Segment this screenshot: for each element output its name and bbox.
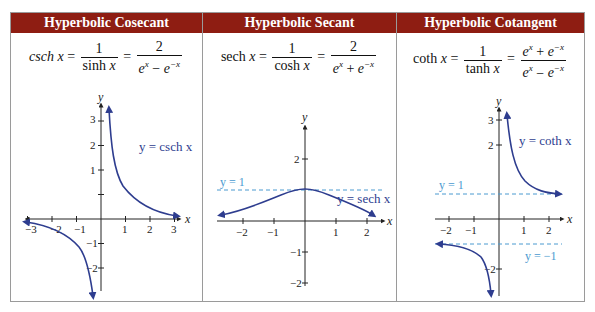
svg-text:−3: −3 xyxy=(25,223,37,235)
svg-text:3: 3 xyxy=(90,113,96,125)
svg-text:x: x xyxy=(566,212,573,226)
formula-coth: coth x = 1tanh x = ex + e−xex − e−x xyxy=(397,39,584,81)
svg-text:2: 2 xyxy=(546,224,552,236)
svg-text:1: 1 xyxy=(122,223,128,235)
svg-text:−2: −2 xyxy=(236,226,248,238)
coth-graph: x y −2 −1 1 2 3 2 −2 y = 1 y = −1 y = co… xyxy=(397,91,585,301)
panel-coth: Hyperbolic Cotangent coth x = 1tanh x = … xyxy=(396,13,584,301)
formula-lhs: coth x xyxy=(413,51,447,66)
panel-title: Hyperbolic Cotangent xyxy=(397,13,584,33)
fraction-1: 1sinh x xyxy=(81,41,118,74)
sech-graph: x y −2 −1 1 2 2 −1 −2 y = 1 y = sech x xyxy=(203,91,397,301)
svg-text:1: 1 xyxy=(521,224,527,236)
curve-label: y = coth x xyxy=(519,133,572,148)
asymptote-label: y = 1 xyxy=(220,175,245,189)
svg-text:2: 2 xyxy=(294,153,300,165)
formula-csch: csch x = 1sinh x = 2ex − e−x xyxy=(11,39,202,77)
panel-title: Hyperbolic Secant xyxy=(203,13,396,33)
hyperbolic-functions-table: Hyperbolic Cosecant csch x = 1sinh x = 2… xyxy=(10,12,585,302)
svg-text:1: 1 xyxy=(333,226,339,238)
svg-text:−1: −1 xyxy=(86,237,98,249)
svg-text:y: y xyxy=(495,94,502,108)
fraction-2: ex + e−xex − e−x xyxy=(521,39,566,81)
svg-text:−2: −2 xyxy=(290,277,302,289)
svg-text:x: x xyxy=(386,214,393,228)
svg-text:y: y xyxy=(301,110,308,124)
fraction-1: 1cosh x xyxy=(272,41,311,74)
formula-sech: sech x = 1cosh x = 2ex + e−x xyxy=(203,39,396,77)
asymptote-label: y = −1 xyxy=(525,249,557,263)
curve-label: y = sech x xyxy=(337,191,391,206)
y-axis-label: y xyxy=(97,91,104,104)
svg-text:3: 3 xyxy=(488,114,494,126)
svg-text:2: 2 xyxy=(488,139,494,151)
svg-text:−1: −1 xyxy=(74,223,86,235)
svg-text:1: 1 xyxy=(90,164,96,176)
svg-text:2: 2 xyxy=(147,223,153,235)
panel-sech: Hyperbolic Secant sech x = 1cosh x = 2ex… xyxy=(202,13,396,301)
fraction-1: 1tanh x xyxy=(464,44,502,77)
fraction-2: 2ex − e−x xyxy=(137,39,182,77)
svg-text:2: 2 xyxy=(90,139,96,151)
svg-text:3: 3 xyxy=(171,223,177,235)
asymptote-label: y = 1 xyxy=(439,178,464,192)
svg-text:−2: −2 xyxy=(440,224,452,236)
svg-text:−1: −1 xyxy=(267,226,279,238)
formula-lhs: csch x xyxy=(29,49,64,64)
csch-graph: x y −3 −2 −1 1 2 3 3 2 1 −1 −2 y = csch … xyxy=(11,91,202,301)
panel-csch: Hyperbolic Cosecant csch x = 1sinh x = 2… xyxy=(11,13,202,301)
panel-title: Hyperbolic Cosecant xyxy=(11,13,202,33)
formula-lhs: sech x xyxy=(221,49,256,64)
curve-label: y = csch x xyxy=(139,139,193,154)
svg-text:−1: −1 xyxy=(465,224,477,236)
svg-text:2: 2 xyxy=(364,226,370,238)
svg-text:−1: −1 xyxy=(290,246,302,258)
fraction-2: 2ex + e−x xyxy=(331,39,376,77)
x-axis-label: x xyxy=(184,212,191,226)
